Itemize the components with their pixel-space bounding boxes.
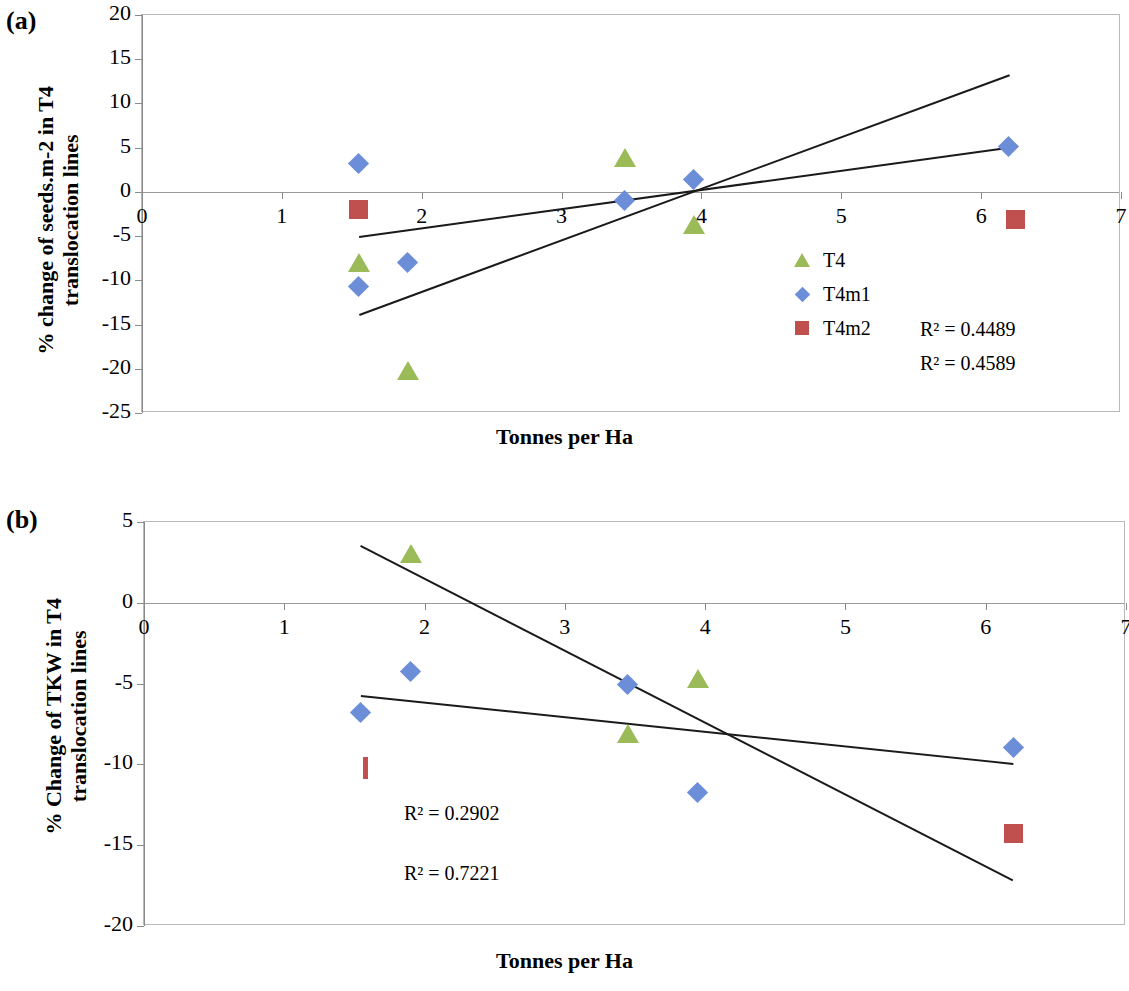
- trendline: [361, 545, 1014, 881]
- x-axis-tick-label: 7: [1101, 203, 1129, 229]
- y-axis-tick: [135, 413, 142, 414]
- data-point-t4m2-thin: [363, 757, 368, 779]
- r-squared-label: R² = 0.4489: [920, 318, 1016, 341]
- x-axis-tick: [284, 603, 285, 610]
- y-axis-tick: [135, 192, 142, 193]
- x-axis-tick: [565, 603, 566, 610]
- data-point-t4: [614, 148, 636, 167]
- y-axis-tick-label: 0: [73, 177, 131, 203]
- legend-triangle-icon: [794, 253, 810, 267]
- panel-b-plot-area: 50-5-10-15-2001234567: [143, 521, 1125, 925]
- x-axis-tick-label: 6: [966, 614, 1006, 640]
- x-axis-tick-label: 7: [1106, 614, 1129, 640]
- x-axis-tick: [701, 192, 702, 199]
- data-point-t4m2: [1006, 210, 1025, 229]
- panel-a: (a) % change of seeds.m-2 in T4transloca…: [0, 0, 1129, 500]
- data-point-t4m1: [998, 136, 1019, 157]
- x-axis-tick: [1121, 192, 1122, 199]
- x-axis-tick-label: 3: [545, 614, 585, 640]
- legend-item[interactable]: T4m1: [785, 277, 871, 311]
- x-axis-tick: [986, 603, 987, 610]
- r-squared-label: R² = 0.4589: [920, 352, 1016, 375]
- x-axis-tick: [841, 192, 842, 199]
- x-axis-tick: [981, 192, 982, 199]
- x-axis-tick-label: 6: [961, 203, 1001, 229]
- x-axis-tick-label: 1: [262, 203, 302, 229]
- panel-b-x-axis-title: Tonnes per Ha: [0, 948, 1129, 974]
- x-axis-tick-label: 2: [405, 614, 445, 640]
- x-axis-tick: [562, 192, 563, 199]
- data-point-t4m1: [1003, 737, 1024, 758]
- y-axis-tick-label: 5: [75, 507, 133, 533]
- y-axis-tick: [135, 325, 142, 326]
- y-axis-tick: [137, 522, 144, 523]
- y-axis-tick: [137, 603, 144, 604]
- data-point-t4: [687, 669, 709, 688]
- data-point-t4: [397, 361, 419, 380]
- zero-gridline: [142, 192, 1119, 193]
- y-axis-tick: [137, 845, 144, 846]
- trendline: [361, 695, 1014, 765]
- data-point-t4: [617, 724, 639, 743]
- r-squared-label: R² = 0.2902: [404, 802, 500, 825]
- trendline: [359, 74, 1010, 316]
- data-point-t4m1: [687, 782, 708, 803]
- x-axis-tick-label: 0: [124, 614, 164, 640]
- legend-item[interactable]: T4: [785, 243, 871, 277]
- x-axis-tick: [705, 603, 706, 610]
- data-point-t4m1: [350, 702, 371, 723]
- y-axis-tick: [137, 926, 144, 927]
- x-axis-tick-label: 5: [825, 614, 865, 640]
- y-axis-tick-label: -20: [73, 354, 131, 380]
- y-axis-tick: [135, 148, 142, 149]
- y-axis-tick-label: -15: [75, 830, 133, 856]
- y-axis-tick: [135, 236, 142, 237]
- legend-symbol: [785, 321, 819, 335]
- data-point-t4m1: [399, 661, 420, 682]
- y-axis-title-line-1: % Change of TKW in T4: [41, 566, 66, 866]
- legend-item[interactable]: T4m2: [785, 311, 871, 345]
- x-axis-tick-label: 5: [821, 203, 861, 229]
- y-axis-tick-label: -20: [75, 911, 133, 937]
- x-axis-tick: [845, 603, 846, 610]
- data-point-t4: [348, 253, 370, 272]
- y-axis-tick: [135, 15, 142, 16]
- x-axis-tick-label: 4: [685, 614, 725, 640]
- y-axis-tick: [135, 59, 142, 60]
- panel-a-tag: (a): [6, 6, 36, 36]
- data-point-t4: [683, 215, 705, 234]
- legend-diamond-icon: [794, 286, 810, 302]
- legend-symbol: [785, 253, 819, 267]
- data-point-t4m1: [348, 152, 369, 173]
- data-point-t4m2: [349, 200, 368, 219]
- x-axis-tick: [425, 603, 426, 610]
- legend-item-label: T4: [819, 249, 845, 272]
- panel-b-tag: (b): [6, 505, 38, 535]
- panel-b: (b) % Change of TKW in T4translocation l…: [0, 491, 1129, 991]
- y-axis-tick-label: 10: [73, 88, 131, 114]
- x-axis-tick: [1126, 603, 1127, 610]
- zero-gridline: [144, 603, 1124, 604]
- x-axis-tick-label: 1: [264, 614, 304, 640]
- y-axis-tick-label: 20: [73, 0, 131, 26]
- y-axis-tick-label: -10: [75, 749, 133, 775]
- y-axis-tick-label: -5: [75, 669, 133, 695]
- legend-symbol: [785, 289, 819, 300]
- r-squared-label: R² = 0.7221: [404, 862, 500, 885]
- y-axis-tick-label: -15: [73, 310, 131, 336]
- y-axis-tick-label: 5: [73, 133, 131, 159]
- y-axis-tick-label: -25: [73, 398, 131, 424]
- data-point-t4m1: [397, 252, 418, 273]
- y-axis-tick: [135, 369, 142, 370]
- y-axis-tick: [135, 280, 142, 281]
- y-axis-title-line-1: % change of seeds.m-2 in T4: [33, 80, 58, 360]
- y-axis-tick: [137, 684, 144, 685]
- panel-a-x-axis-title: Tonnes per Ha: [0, 424, 1129, 450]
- x-axis-tick-label: 0: [122, 203, 162, 229]
- data-point-t4: [400, 544, 422, 563]
- y-axis-tick-label: 15: [73, 44, 131, 70]
- y-axis-tick: [137, 764, 144, 765]
- data-point-t4m1: [348, 276, 369, 297]
- legend-square-icon: [795, 321, 809, 335]
- y-axis-tick-label: -10: [73, 265, 131, 291]
